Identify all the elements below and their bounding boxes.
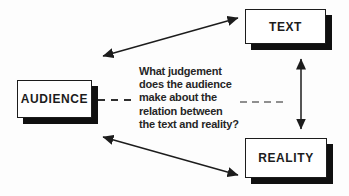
audience-box: AUDIENCE — [17, 80, 92, 118]
text-box-label: TEXT — [269, 20, 302, 34]
text-box: TEXT — [245, 9, 326, 44]
center-question: What judgement does the audience make ab… — [139, 65, 259, 131]
diagram-canvas: TEXT AUDIENCE REALITY What judgement doe… — [0, 0, 349, 196]
reality-box-label: REALITY — [258, 151, 314, 165]
audience-box-label: AUDIENCE — [21, 92, 88, 106]
reality-box: REALITY — [245, 138, 327, 178]
audience-reality-arrow — [103, 137, 238, 175]
audience-text-arrow — [103, 18, 238, 56]
